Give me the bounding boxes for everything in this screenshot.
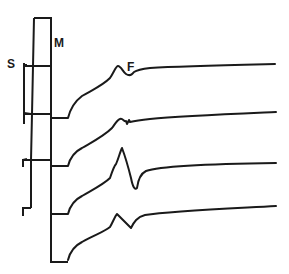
trace-2 (51, 112, 276, 166)
m-calibration-frame (24, 18, 68, 262)
f-label: F (127, 61, 134, 73)
waveform-svg (0, 0, 289, 274)
s-label: S (7, 58, 15, 70)
m-label: M (54, 37, 64, 49)
s-stimulus-markers (23, 63, 31, 216)
trace-4 (68, 206, 276, 260)
trace-1 (51, 64, 275, 118)
waveform-diagram: S M F (0, 0, 289, 274)
trace-3 (51, 148, 276, 214)
